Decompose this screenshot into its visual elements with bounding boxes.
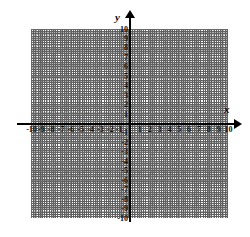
y-tick-label: 8 bbox=[124, 44, 128, 52]
y-tick-label: -8 bbox=[121, 196, 128, 204]
x-tick-label: -4 bbox=[87, 126, 94, 134]
x-tick-label: -8 bbox=[48, 126, 55, 134]
x-tick-label: 3 bbox=[158, 126, 162, 134]
x-axis-arrow-icon bbox=[234, 119, 242, 129]
x-tick-label: 2 bbox=[148, 126, 152, 134]
y-tick-label: -1 bbox=[121, 129, 128, 137]
y-tick-label: 3 bbox=[124, 92, 128, 100]
y-tick-label: -6 bbox=[121, 177, 128, 185]
x-tick-label: 4 bbox=[167, 126, 171, 134]
y-tick-label: 2 bbox=[124, 101, 128, 109]
x-tick-label: 7 bbox=[197, 126, 201, 134]
x-tick-label: -10 bbox=[26, 126, 37, 134]
y-axis-arrow-icon bbox=[125, 10, 135, 18]
y-tick-label: -9 bbox=[121, 205, 128, 213]
y-tick-label: 1 bbox=[124, 111, 128, 119]
coordinate-plane: x y -10-9-8-7-6-5-4-3-2-112345678910 109… bbox=[0, 0, 250, 237]
y-tick-label: 6 bbox=[124, 63, 128, 71]
y-tick-label: -10 bbox=[117, 215, 128, 223]
x-tick-label: -5 bbox=[77, 126, 84, 134]
y-tick-label: 10 bbox=[120, 26, 128, 34]
x-tick-label: 6 bbox=[187, 126, 191, 134]
x-tick-label: 9 bbox=[217, 126, 221, 134]
x-tick-label: -6 bbox=[68, 126, 75, 134]
y-axis-label: y bbox=[115, 12, 120, 23]
x-tick-label: -7 bbox=[58, 126, 65, 134]
y-tick-label: -4 bbox=[121, 158, 128, 166]
y-tick-label: -2 bbox=[121, 139, 128, 147]
y-tick-label: -5 bbox=[121, 167, 128, 175]
y-tick-label: -7 bbox=[121, 186, 128, 194]
x-tick-label: -3 bbox=[97, 126, 104, 134]
x-tick-label: 1 bbox=[138, 126, 142, 134]
x-tick-label: 8 bbox=[207, 126, 211, 134]
y-tick-label: 7 bbox=[124, 54, 128, 62]
y-axis-line bbox=[129, 16, 131, 222]
x-axis-label: x bbox=[224, 104, 230, 115]
x-tick-label: -9 bbox=[38, 126, 45, 134]
y-tick-label: 5 bbox=[124, 73, 128, 81]
x-tick-label: 5 bbox=[177, 126, 181, 134]
y-tick-label: -3 bbox=[121, 148, 128, 156]
x-tick-label: -2 bbox=[107, 126, 114, 134]
x-tick-label: 10 bbox=[225, 126, 233, 134]
y-tick-label: 9 bbox=[124, 35, 128, 43]
y-tick-label: 4 bbox=[124, 82, 128, 90]
